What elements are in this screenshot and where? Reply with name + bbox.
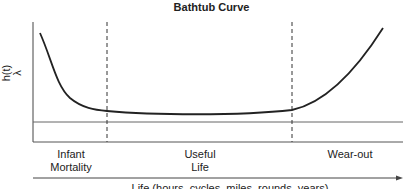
x-axis-label: Life (hours, cycles, miles, rounds, year… — [100, 182, 360, 189]
x-axis-arrow-icon — [396, 176, 403, 181]
region-label-wear-out: Wear-out — [300, 148, 400, 161]
chart-title: Bathtub Curve — [0, 1, 403, 13]
region-label-infant-mortality: Infant Mortality — [40, 148, 102, 174]
hazard-curve — [40, 28, 383, 114]
y-axis-label-bottom: λ — [12, 55, 23, 91]
region-label-useful-life: Useful Life — [150, 148, 250, 174]
y-axis-label: h(t) λ — [1, 55, 23, 91]
